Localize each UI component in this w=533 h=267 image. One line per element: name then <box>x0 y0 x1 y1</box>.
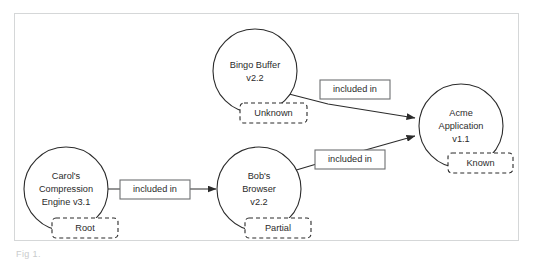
node-label-bobs-browser-line3: v2.2 <box>250 197 267 207</box>
edge-label-text-bobs-to-acme: included in <box>328 154 372 164</box>
node-carols-compression-engine[interactable]: Carol's Compression Engine v3.1 Root <box>24 147 118 238</box>
edge-label-text-carols-to-bobs: included in <box>133 184 177 194</box>
node-label-carols-line2: Compression <box>39 184 93 194</box>
node-bingo-buffer[interactable]: Bingo Buffer v2.2 Unknown <box>213 29 307 123</box>
node-label-acme-application-line2: Application <box>439 121 484 131</box>
status-badge-label-bobs-browser: Partial <box>265 223 291 233</box>
node-bobs-browser[interactable]: Bob's Browser v2.2 Partial <box>217 147 311 238</box>
status-badge-carols-compression-engine[interactable]: Root <box>52 218 118 238</box>
node-label-acme-application-line1: Acme <box>449 108 473 118</box>
node-label-bingo-buffer-line1: Bingo Buffer <box>230 60 280 70</box>
dependency-graph: Bingo Buffer v2.2 Unknown Acme Applicati… <box>0 0 533 267</box>
node-label-carols-line3: Engine v3.1 <box>42 197 91 207</box>
status-badge-bobs-browser[interactable]: Partial <box>245 218 311 238</box>
status-badge-label-acme-application: Known <box>466 158 494 168</box>
figure-caption: Fig 1. <box>16 249 136 262</box>
node-label-acme-application-line3: v1.1 <box>452 134 469 144</box>
node-acme-application[interactable]: Acme Application v1.1 Known <box>419 84 513 173</box>
node-label-carols-line1: Carol's <box>52 171 81 181</box>
status-badge-label-bingo-buffer: Unknown <box>254 108 292 118</box>
diagram-page: Bingo Buffer v2.2 Unknown Acme Applicati… <box>0 0 533 267</box>
edge-label-bobs-to-acme[interactable]: included in <box>315 150 385 169</box>
node-label-bobs-browser-line1: Bob's <box>248 171 271 181</box>
status-badge-label-carols-compression-engine: Root <box>75 223 95 233</box>
status-badge-acme-application[interactable]: Known <box>448 153 513 173</box>
node-circle-bingo-buffer[interactable] <box>213 29 297 113</box>
node-label-bobs-browser-line2: Browser <box>242 184 276 194</box>
node-label-bingo-buffer-line2: v2.2 <box>246 73 263 83</box>
edge-label-text-bingo-to-acme: included in <box>333 84 377 94</box>
edge-label-bingo-to-acme[interactable]: included in <box>320 80 390 99</box>
edge-label-carols-to-bobs[interactable]: included in <box>120 180 190 199</box>
status-badge-bingo-buffer[interactable]: Unknown <box>240 103 307 123</box>
